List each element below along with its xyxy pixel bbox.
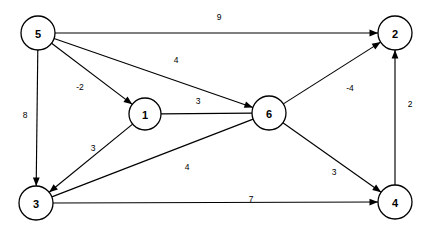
- edge-weight-label: -4: [346, 83, 354, 93]
- node-label: 5: [35, 28, 41, 40]
- graph-node-5[interactable]: 5: [21, 16, 55, 50]
- node-label: 3: [33, 198, 39, 210]
- node-label: 1: [142, 109, 148, 121]
- graph-edge: [161, 113, 252, 114]
- edge-arrowhead: [123, 97, 132, 105]
- edge-weight-label: 4: [185, 162, 190, 172]
- edge-weight-label: 3: [332, 167, 337, 177]
- graph-node-2[interactable]: 2: [378, 16, 412, 50]
- graph-node-1[interactable]: 1: [129, 98, 161, 130]
- edge-weight-label: -2: [76, 82, 84, 92]
- arrowheads-layer: [33, 30, 398, 206]
- graph-edge: [52, 43, 133, 104]
- graph-node-6[interactable]: 6: [252, 96, 286, 130]
- edge-weight-label: 3: [91, 143, 96, 153]
- graph-edge: [52, 119, 253, 197]
- edge-weight-label: 8: [23, 110, 28, 120]
- edge-arrowhead: [244, 101, 253, 107]
- graph-diagram: 94-28334-4372 521634: [0, 0, 437, 239]
- graph-node-4[interactable]: 4: [378, 185, 412, 219]
- edge-labels-layer: 94-28334-4372: [23, 12, 413, 204]
- edge-weight-label: 2: [408, 99, 413, 109]
- edge-weight-label: 9: [217, 12, 222, 22]
- node-label: 6: [266, 108, 272, 120]
- graph-edge: [36, 50, 38, 186]
- node-label: 2: [392, 28, 398, 40]
- edge-arrowhead: [33, 177, 40, 186]
- edge-weight-label: 7: [249, 194, 254, 204]
- edge-arrowhead: [49, 184, 58, 192]
- edge-weight-label: 4: [174, 55, 179, 65]
- edge-arrowhead: [369, 199, 378, 206]
- graph-canvas-svg: 94-28334-4372 521634: [0, 0, 437, 239]
- edge-arrowhead: [370, 30, 379, 37]
- graph-edge: [54, 39, 253, 108]
- edges-layer: [36, 33, 395, 203]
- edge-arrowhead: [372, 185, 381, 193]
- graph-edge: [53, 202, 378, 203]
- graph-edge: [283, 42, 380, 104]
- edge-weight-label: 3: [196, 96, 201, 106]
- graph-node-3[interactable]: 3: [19, 186, 53, 220]
- node-label: 4: [392, 197, 399, 209]
- edge-arrowhead: [372, 42, 381, 49]
- graph-edge: [283, 123, 381, 192]
- edge-arrowhead: [392, 50, 399, 59]
